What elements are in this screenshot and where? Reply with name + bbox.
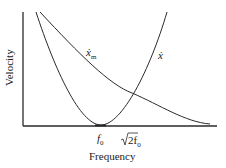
x-axis-label: Frequency bbox=[89, 150, 135, 162]
y-axis-label: Velocity bbox=[3, 49, 15, 86]
diagram-canvas bbox=[0, 0, 226, 168]
f0-tick-label: f0 bbox=[97, 133, 104, 147]
sqrt2-f0-tick-label: 2f0 bbox=[128, 135, 141, 149]
x-m-dot-label: ẋm bbox=[86, 47, 96, 61]
x-dot-label: ẋ bbox=[158, 50, 163, 61]
